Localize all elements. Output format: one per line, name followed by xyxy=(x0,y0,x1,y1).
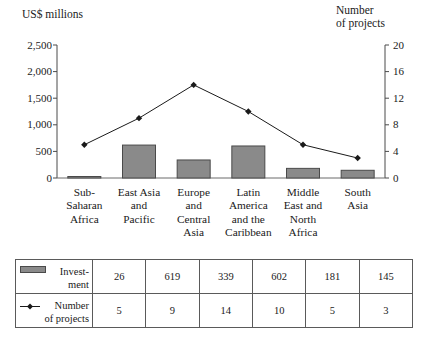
bar-4 xyxy=(287,168,320,178)
left-tick-label: 2,000 xyxy=(8,66,52,77)
line-marker-0 xyxy=(81,142,87,148)
category-label-4: Middle East and North Africa xyxy=(272,186,335,239)
right-tick-label: 20 xyxy=(393,40,417,51)
bar-0 xyxy=(68,177,101,179)
bar-3 xyxy=(232,146,265,178)
bar-5 xyxy=(341,170,374,178)
right-tick-label: 8 xyxy=(393,119,417,130)
table-cell: 3 xyxy=(359,294,412,328)
category-label-3: Latin America and the Caribbean xyxy=(217,186,280,239)
right-tick-label: 4 xyxy=(393,146,417,157)
table-row-header: Number of projects xyxy=(16,294,93,328)
line-marker-5 xyxy=(354,155,360,161)
table-row-label: Number of projects xyxy=(44,300,89,324)
table-cell: 9 xyxy=(146,294,199,328)
legend-bar-swatch-icon xyxy=(20,266,46,273)
right-tick-label: 0 xyxy=(393,173,417,184)
right-tick-label: 16 xyxy=(393,66,417,77)
table-cell: 5 xyxy=(93,294,146,328)
category-label-5: South Asia xyxy=(326,186,389,213)
left-tick-label: 2,500 xyxy=(8,40,52,51)
category-label-0: Sub- Saharan Africa xyxy=(53,186,116,226)
table-cell: 5 xyxy=(306,294,359,328)
table-cell: 619 xyxy=(146,260,199,294)
line-marker-3 xyxy=(245,108,251,114)
category-label-1: East Asia and Pacific xyxy=(108,186,171,226)
table-cell: 181 xyxy=(306,260,359,294)
table-row: Number of projects59141053 xyxy=(16,294,413,328)
line-marker-1 xyxy=(136,115,142,121)
bar-2 xyxy=(177,160,210,178)
table-cell: 602 xyxy=(252,260,305,294)
line-marker-2 xyxy=(190,82,196,88)
table-cell: 26 xyxy=(93,260,146,294)
table-row: Invest- ment26619339602181145 xyxy=(16,260,413,294)
right-tick-label: 12 xyxy=(393,93,417,104)
table-cell: 145 xyxy=(359,260,412,294)
category-label-2: Europe and Central Asia xyxy=(162,186,225,239)
table-row-header: Invest- ment xyxy=(16,260,93,294)
table-cell: 10 xyxy=(252,294,305,328)
left-tick-label: 1,000 xyxy=(8,119,52,130)
table-row-label: Invest- ment xyxy=(60,266,89,290)
data-table: Invest- ment26619339602181145Number of p… xyxy=(15,259,413,328)
left-tick-label: 1,500 xyxy=(8,93,52,104)
left-tick-label: 0 xyxy=(8,173,52,184)
bar-1 xyxy=(123,145,156,178)
table-cell: 339 xyxy=(199,260,252,294)
chart-container: US$ millions Number of projects 05001,00… xyxy=(0,0,435,354)
left-tick-label: 500 xyxy=(8,146,52,157)
line-marker-4 xyxy=(300,142,306,148)
legend-line-marker-icon xyxy=(19,302,47,311)
table-cell: 14 xyxy=(199,294,252,328)
